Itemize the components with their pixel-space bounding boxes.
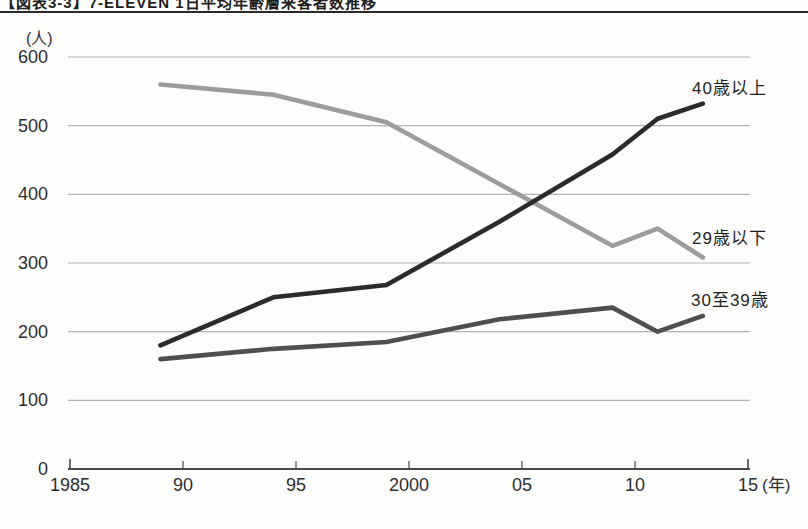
x-tick-label-2005: 05 [512, 475, 532, 495]
series-line-29歳以下 [160, 84, 702, 257]
y-tick-label-600: 600 [18, 47, 48, 67]
x-tick-label-1995: 95 [286, 475, 306, 495]
y-tick-label-0: 0 [38, 459, 48, 479]
y-tick-label-200: 200 [18, 322, 48, 342]
x-axis-unit-label: (年) [762, 476, 790, 495]
y-tick-label-500: 500 [18, 116, 48, 136]
x-tick-label-1985: 1985 [50, 475, 90, 495]
x-tick-label-2010: 10 [625, 475, 645, 495]
x-tick-label-2000: 2000 [389, 475, 429, 495]
y-axis-unit-label: (人) [26, 30, 53, 47]
y-tick-label-300: 300 [18, 253, 48, 273]
series-label-29-and-under: 29歳以下 [692, 224, 767, 249]
y-tick-label-100: 100 [18, 390, 48, 410]
series-label-40-and-over: 40歳以上 [692, 74, 767, 99]
chart-page: 【図表3-3】7-ELEVEN 1日平均年齢層来客者数推移 0100200300… [0, 0, 808, 529]
chart-svg: 0100200300400500600(人)198590952000051015… [0, 0, 808, 529]
series-line-40歳以上 [160, 104, 702, 346]
y-tick-label-400: 400 [18, 184, 48, 204]
x-tick-label-1990: 90 [173, 475, 193, 495]
series-line-30至39歳 [160, 308, 702, 360]
x-tick-label-2015: 15 [738, 475, 758, 495]
series-label-30-to-39: 30至39歳 [691, 286, 769, 311]
